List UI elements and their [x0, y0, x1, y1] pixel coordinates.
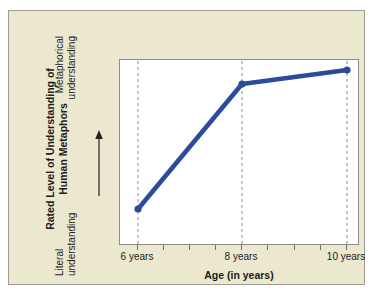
y-scale-high-line1: Metaphorical: [54, 36, 66, 156]
data-point-8-years: [238, 80, 245, 87]
figure-container: Rated Level of Understanding of Human Me…: [0, 0, 375, 296]
x-tick-label-8-years: 8 years: [225, 251, 258, 262]
plot-area: [119, 59, 359, 245]
data-point-6-years: [134, 205, 141, 212]
data-point-10-years: [343, 66, 350, 73]
x-axis-title: Age (in years): [119, 269, 359, 281]
y-scale-high-label: Metaphorical understanding: [54, 36, 78, 156]
x-tick-label-10-years: 10 years: [327, 251, 365, 262]
y-scale-low-label: Literal understanding: [54, 156, 78, 276]
scale-direction-arrow-icon: [93, 129, 105, 197]
y-scale-low-line2: understanding: [66, 156, 78, 276]
x-tick-label-6-years: 6 years: [121, 251, 154, 262]
y-scale-low-line1: Literal: [54, 156, 66, 276]
y-scale-high-line2: understanding: [66, 36, 78, 156]
line-chart-svg: [120, 60, 360, 246]
figure-panel: Rated Level of Understanding of Human Me…: [8, 10, 365, 285]
